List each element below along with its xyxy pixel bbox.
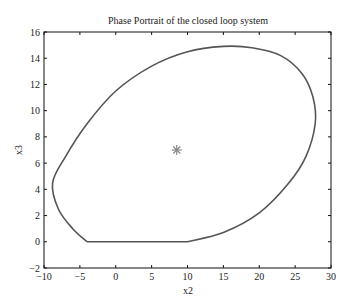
trajectory-line (52, 46, 315, 242)
y-tick-label: 10 (30, 105, 40, 116)
y-tick-label: 0 (35, 236, 40, 247)
y-tick-label: 4 (35, 184, 40, 195)
chart-title: Phase Portrait of the closed loop system (108, 15, 268, 26)
y-tick-label: 2 (35, 210, 40, 221)
axes-box (44, 32, 331, 268)
x-tick-label: 20 (254, 271, 264, 282)
y-tick-label: 14 (30, 53, 40, 64)
x-tick-label: 5 (149, 271, 154, 282)
x-tick-label: 25 (290, 271, 300, 282)
y-tick-label: 8 (35, 131, 40, 142)
y-tick-label: −2 (29, 263, 40, 274)
x-tick-label: 10 (183, 271, 193, 282)
x-tick-label: 0 (113, 271, 118, 282)
y-axis-label: x3 (13, 145, 24, 155)
plot-area: −10−5051015202530−20246810121416 (29, 27, 336, 283)
y-tick-label: 6 (35, 158, 40, 169)
x-axis-label: x2 (183, 285, 193, 296)
phase-portrait-chart: Phase Portrait of the closed loop system… (0, 0, 351, 304)
equilibrium-star-marker (172, 145, 182, 155)
y-tick-label: 16 (30, 27, 40, 38)
y-tick-label: 12 (30, 79, 40, 90)
x-tick-label: 15 (218, 271, 228, 282)
x-tick-label: 30 (326, 271, 336, 282)
x-tick-label: −5 (75, 271, 86, 282)
